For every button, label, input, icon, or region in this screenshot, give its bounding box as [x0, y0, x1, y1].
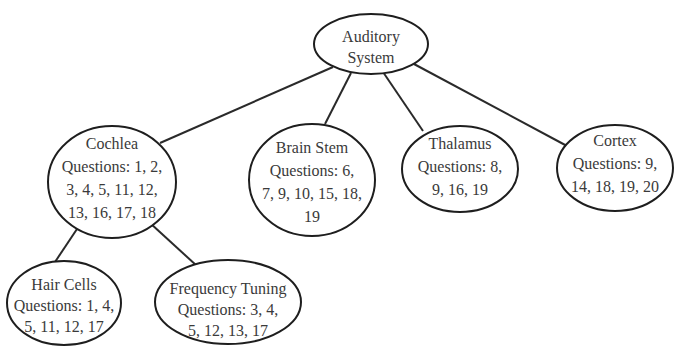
- node-title: Brain Stem: [276, 139, 349, 156]
- node-title: Cortex: [593, 132, 637, 149]
- node-brain-stem: Brain Stem Questions: 6, 7, 9, 10, 15, 1…: [249, 124, 375, 236]
- node-title: Cochlea: [86, 135, 138, 152]
- concept-tree-diagram: Auditory System Cochlea Questions: 1, 2,…: [0, 0, 677, 358]
- node-questions: 14, 18, 19, 20: [571, 178, 659, 195]
- node-title: System: [347, 49, 395, 67]
- node-questions: Questions: 9,: [573, 155, 657, 172]
- node-cochlea: Cochlea Questions: 1, 2, 3, 4, 5, 11, 12…: [48, 126, 176, 238]
- node-questions: 5, 11, 12, 17: [24, 318, 103, 335]
- node-title: Auditory: [342, 28, 400, 46]
- node-questions: 7, 9, 10, 15, 18,: [262, 185, 362, 202]
- edge-root-brain-stem: [325, 73, 351, 124]
- node-questions: Questions: 1, 2,: [62, 158, 162, 175]
- node-cortex: Cortex Questions: 9, 14, 18, 19, 20: [557, 125, 673, 211]
- node-title: Frequency Tuning: [170, 280, 287, 298]
- node-hair-cells: Hair Cells Questions: 1, 4, 5, 11, 12, 1…: [7, 261, 121, 345]
- node-questions: 5, 12, 13, 17: [188, 322, 268, 339]
- edge-root-thalamus: [383, 72, 423, 131]
- edge-cochlea-hair-cells: [55, 226, 79, 262]
- node-questions: Questions: 6,: [270, 162, 354, 179]
- node-questions: 13, 16, 17, 18: [68, 204, 156, 221]
- node-questions: Questions: 8,: [418, 158, 502, 175]
- node-title: Hair Cells: [31, 276, 96, 293]
- node-questions: 19: [304, 208, 320, 225]
- edge-cochlea-frequency-tuning: [150, 223, 197, 266]
- node-frequency-tuning: Frequency Tuning Questions: 3, 4, 5, 12,…: [155, 260, 301, 344]
- node-title: Thalamus: [428, 135, 491, 152]
- node-auditory-system: Auditory System: [314, 14, 428, 74]
- node-thalamus: Thalamus Questions: 8, 9, 16, 19: [402, 126, 518, 212]
- node-questions: Questions: 1, 4,: [14, 297, 114, 314]
- node-questions: Questions: 3, 4,: [178, 301, 278, 318]
- node-questions: 3, 4, 5, 11, 12,: [66, 181, 157, 198]
- node-questions: 9, 16, 19: [432, 181, 488, 198]
